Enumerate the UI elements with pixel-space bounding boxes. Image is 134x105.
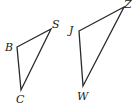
triangle-jzw [79, 7, 124, 86]
vertex-label-b: B [4, 41, 13, 54]
triangle-bsc [17, 29, 51, 90]
vertex-label-w: W [77, 90, 90, 103]
vertex-label-c: C [16, 93, 25, 105]
vertex-label-z: Z [123, 0, 132, 11]
triangles-diagram: B S C J Z W [0, 0, 134, 105]
vertex-label-s: S [52, 18, 60, 31]
vertex-label-j: J [67, 24, 74, 37]
